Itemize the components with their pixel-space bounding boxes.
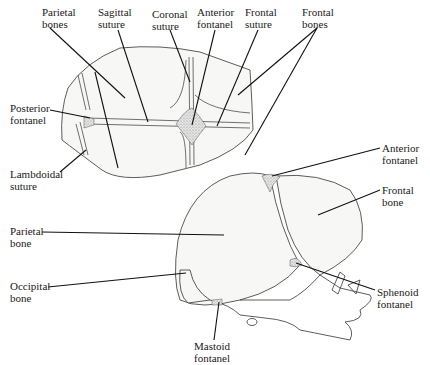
leader-frontal-bones-1 — [238, 28, 317, 95]
label-sphenoid-fontanel: Sphenoidfontanel — [377, 286, 419, 310]
mastoid-fontanel-lateral — [212, 299, 222, 305]
label-frontal-bone: Frontalbone — [382, 184, 414, 208]
label-lambdoidal-suture: Lambdoidalsuture — [10, 168, 63, 192]
leader-sphenoid-fontanel — [296, 263, 375, 290]
leader-lambdoidal-suture — [60, 150, 86, 172]
leader-anterior-fontanel-side — [272, 148, 380, 176]
label-frontal-suture: Frontalsuture — [245, 6, 277, 30]
leader-frontal-bones-2 — [245, 28, 317, 155]
label-coronal-suture: Coronalsuture — [152, 8, 187, 32]
skull-diagram: Parietalbones Sagittalsuture Coronalsutu… — [0, 0, 430, 365]
ear-opening — [247, 319, 257, 326]
label-parietal-bones: Parietalbones — [42, 6, 76, 30]
label-mastoid-fontanel: Mastoidfontanel — [194, 340, 231, 364]
label-frontal-bones: Frontalbones — [302, 6, 334, 30]
lateral-skull-view — [175, 173, 371, 340]
label-posterior-fontanel: Posteriorfontanel — [10, 102, 50, 126]
leader-occipital-bone — [48, 273, 186, 287]
label-parietal-bone: Parietalbone — [10, 225, 44, 249]
label-sagittal-suture: Sagittalsuture — [98, 6, 132, 30]
sphenoid-fontanel-lateral — [290, 258, 302, 266]
label-occipital-bone: Occipitalbone — [10, 280, 50, 304]
label-anterior-fontanel-side: Anteriorfontanel — [382, 142, 420, 166]
label-anterior-fontanel-top: Anteriorfontanel — [197, 6, 235, 30]
leader-mastoid-fontanel — [214, 302, 219, 340]
